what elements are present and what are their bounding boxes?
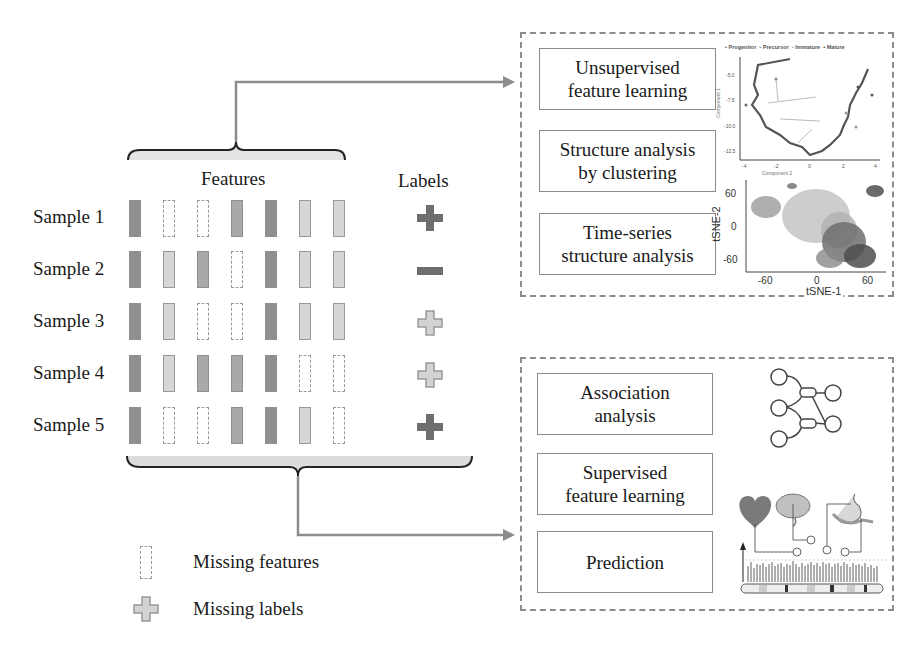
plus-label-icon xyxy=(417,205,443,231)
feature-cell xyxy=(265,251,277,288)
feature-cell xyxy=(299,303,311,340)
task-association-analysis: Associationanalysis xyxy=(537,373,713,435)
sample-label: Sample 5 xyxy=(33,414,104,436)
manhattan-organ-plot-icon xyxy=(733,490,893,595)
feature-cell xyxy=(333,303,345,340)
sample-label: Sample 2 xyxy=(33,258,104,280)
task-time-series-structure-analysis: Time-seriesstructure analysis xyxy=(539,213,716,275)
feature-cell xyxy=(163,355,175,392)
feature-cell xyxy=(129,303,141,340)
feature-cell xyxy=(299,407,311,444)
plus-label-icon xyxy=(417,414,443,440)
svg-text:-4: -4 xyxy=(742,163,747,169)
missing-label-legend-icon xyxy=(133,596,159,622)
tsne-xtick: 60 xyxy=(862,275,873,286)
task-unsupervised-feature-learning: Unsupervisedfeature learning xyxy=(539,48,716,110)
feature-cell xyxy=(231,407,243,444)
arrow-to-unsupervised xyxy=(236,82,505,142)
feature-cell xyxy=(265,303,277,340)
tsne-plot xyxy=(744,180,889,280)
tsne-ytick: 60 xyxy=(725,188,736,199)
trajectory-ylabel: Component 1 xyxy=(715,88,721,118)
svg-text:4: 4 xyxy=(874,163,877,169)
feature-cell xyxy=(265,200,277,237)
feature-cell xyxy=(333,251,345,288)
features-header: Features xyxy=(201,168,265,190)
feature-cell-missing xyxy=(231,251,243,288)
svg-text:0: 0 xyxy=(808,163,811,169)
missing-plus-label-icon xyxy=(417,310,443,336)
feature-cell xyxy=(129,200,141,237)
feature-cell-missing xyxy=(197,407,209,444)
task-prediction: Prediction xyxy=(537,531,713,593)
svg-text:-12.5: -12.5 xyxy=(724,148,736,154)
feature-cell-missing xyxy=(197,200,209,237)
missing-plus-label-icon xyxy=(417,362,443,388)
svg-text:-7.5: -7.5 xyxy=(726,97,735,103)
sample-label: Sample 4 xyxy=(33,362,104,384)
feature-cell xyxy=(163,251,175,288)
feature-cell xyxy=(231,355,243,392)
feature-cell xyxy=(333,200,345,237)
svg-text:-2: -2 xyxy=(774,163,779,169)
trajectory-legend: • Progenitor • Precursor • Immature • Ma… xyxy=(725,44,845,50)
trajectory-xlabel: Component 2 xyxy=(762,170,792,176)
feature-cell xyxy=(265,355,277,392)
arrow-to-supervised xyxy=(298,476,505,535)
trajectory-plot: -5.0 -7.5 -10.0 -12.5 -4 -2 0 2 4 xyxy=(730,55,890,170)
tsne-xlabel: tSNE-1 xyxy=(804,285,843,297)
feature-cell xyxy=(129,355,141,392)
sample-label: Sample 1 xyxy=(33,206,104,228)
svg-text:2: 2 xyxy=(842,163,845,169)
feature-cell xyxy=(197,355,209,392)
task-supervised-feature-learning: Supervisedfeature learning xyxy=(537,453,713,515)
feature-cell xyxy=(129,251,141,288)
feature-cell-missing xyxy=(163,200,175,237)
feature-cell xyxy=(299,251,311,288)
feature-cell-missing xyxy=(333,355,345,392)
network-graph-icon xyxy=(768,368,843,448)
missing-feature-legend-icon xyxy=(140,546,152,579)
legend-missing-labels: Missing labels xyxy=(193,598,303,620)
tsne-xtick: -60 xyxy=(758,275,772,286)
svg-text:-10.0: -10.0 xyxy=(724,123,736,129)
feature-cell xyxy=(129,407,141,444)
feature-cell-missing xyxy=(231,303,243,340)
feature-cell xyxy=(197,251,209,288)
feature-cell-missing xyxy=(299,355,311,392)
feature-cell xyxy=(299,200,311,237)
tsne-ytick: 0 xyxy=(731,221,737,232)
legend-missing-features: Missing features xyxy=(193,551,319,573)
feature-cell xyxy=(265,407,277,444)
feature-cell-missing xyxy=(333,407,345,444)
task-structure-analysis-clustering: Structure analysisby clustering xyxy=(539,130,716,192)
feature-cell-missing xyxy=(197,303,209,340)
sample-label: Sample 3 xyxy=(33,310,104,332)
labels-header: Labels xyxy=(398,170,449,192)
feature-cell xyxy=(163,303,175,340)
tsne-ylabel: tSNE-2 xyxy=(710,206,722,241)
svg-text:-5.0: -5.0 xyxy=(726,72,735,78)
minus-label-icon xyxy=(417,258,443,284)
tsne-ytick: -60 xyxy=(723,254,737,265)
feature-cell xyxy=(231,200,243,237)
feature-cell-missing xyxy=(163,407,175,444)
